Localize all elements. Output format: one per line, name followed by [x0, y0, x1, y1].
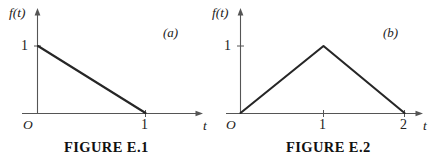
y-axis-arrowhead-2 [238, 8, 244, 16]
curve-triangular-pulse [241, 46, 405, 113]
y-axis-label-fig2: f(t) [212, 6, 229, 20]
x-axis-label-fig1: t [203, 119, 207, 133]
x-tick-label-2-fig2: 2 [400, 118, 407, 132]
y-tick-label-1-fig1: 1 [21, 39, 28, 53]
x-axis-label-fig2: t [423, 119, 427, 133]
x-axis-arrowhead-1 [196, 111, 204, 117]
panel-label-b: (b) [383, 26, 398, 39]
caption-figure-e-1: FIGURE E.1 [64, 139, 149, 156]
y-axis-label-fig1: f(t) [9, 6, 26, 20]
figures-container: f(t) 1 O 1 t (a) FIGURE E.1 f(t) 1 O 1 2… [0, 0, 438, 163]
origin-label-fig2: O [226, 118, 236, 132]
caption-figure-e-2: FIGURE E.2 [286, 139, 371, 156]
x-axis-arrowhead-2 [416, 111, 424, 117]
curve-ramp-down [38, 46, 146, 113]
origin-label-fig1: O [23, 118, 33, 132]
x-tick-label-1-fig1: 1 [141, 118, 148, 132]
x-tick-label-1-fig2: 1 [319, 118, 326, 132]
y-axis-arrowhead-1 [35, 8, 41, 16]
panel-label-a: (a) [163, 26, 178, 39]
y-tick-label-1-fig2: 1 [224, 39, 231, 53]
